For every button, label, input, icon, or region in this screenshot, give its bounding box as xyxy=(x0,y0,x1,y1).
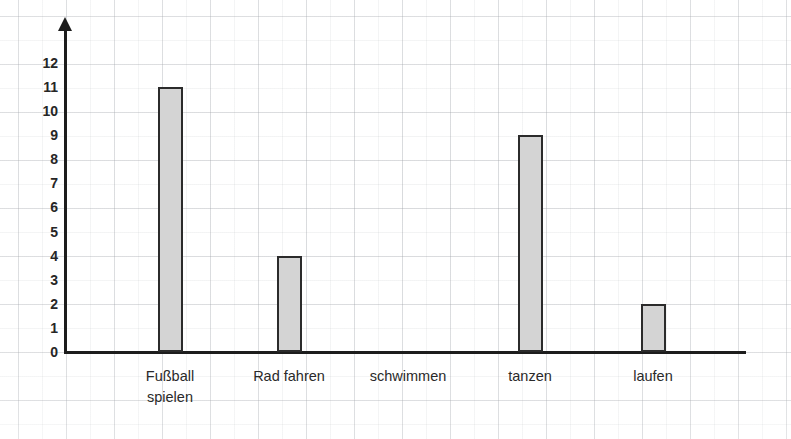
category-label-tanzen: tanzen xyxy=(460,366,600,387)
category-label-schwimmen: schwimmen xyxy=(338,366,478,387)
y-tick-label-1: 1 xyxy=(28,321,58,335)
y-axis-line xyxy=(64,28,67,353)
y-axis-tick-labels: 1211109876543210 xyxy=(22,0,58,439)
bar-rad-fahren xyxy=(277,256,302,352)
y-tick-label-8: 8 xyxy=(28,152,58,166)
y-tick-label-12: 12 xyxy=(28,56,58,70)
y-tick-label-6: 6 xyxy=(28,200,58,214)
y-tick-label-11: 11 xyxy=(28,80,58,94)
y-tick-label-3: 3 xyxy=(28,273,58,287)
y-tick-label-0: 0 xyxy=(28,345,58,359)
y-tick-label-4: 4 xyxy=(28,249,58,263)
y-tick-label-2: 2 xyxy=(28,297,58,311)
bar-tanzen xyxy=(518,135,543,352)
y-axis-arrow-icon xyxy=(58,17,72,31)
plot-area: 1211109876543210 Fußball spielenRad fahr… xyxy=(0,0,791,439)
y-tick-label-7: 7 xyxy=(28,176,58,190)
category-label-laufen: laufen xyxy=(583,366,723,387)
bar-chart-figure: 1211109876543210 Fußball spielenRad fahr… xyxy=(0,0,791,439)
bar-laufen xyxy=(641,304,666,352)
y-tick-label-10: 10 xyxy=(28,104,58,118)
y-tick-label-5: 5 xyxy=(28,225,58,239)
bar-fußball-spielen xyxy=(158,87,183,352)
y-tick-label-9: 9 xyxy=(28,128,58,142)
